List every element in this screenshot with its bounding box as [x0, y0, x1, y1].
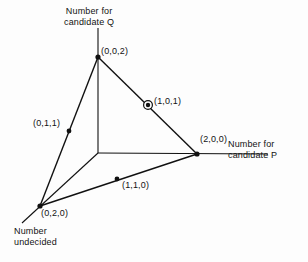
- axis-title-candidate-p: Number for candidate P: [228, 139, 277, 160]
- point-label-011: (0,1,1): [33, 118, 60, 129]
- vertex-label-020: (0,2,0): [41, 208, 68, 219]
- point-marker-101: [146, 103, 150, 107]
- point-label-101: (1,0,1): [154, 96, 181, 107]
- diagram-canvas: [0, 0, 308, 262]
- point-marker-110: [115, 177, 120, 182]
- vertex-marker-002: [95, 54, 100, 59]
- point-label-110: (1,1,0): [122, 180, 149, 191]
- vertex-label-200: (2,0,0): [200, 134, 227, 145]
- vertex-label-002: (0,0,2): [101, 46, 128, 57]
- axis-title-candidate-q: Number for candidate Q: [64, 6, 114, 27]
- vertex-marker-200: [194, 151, 199, 156]
- point-marker-011: [67, 129, 72, 134]
- axis-title-undecided: Number undecided: [14, 226, 57, 247]
- simplex-diagram: Number for candidate Q Number for candid…: [0, 0, 308, 262]
